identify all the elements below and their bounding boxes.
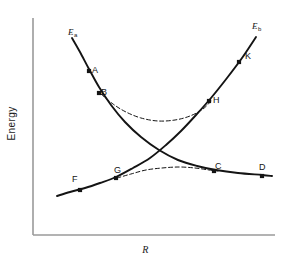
marker-K (237, 60, 241, 64)
point-label-h: H (213, 96, 220, 105)
curve-label-subscript: a (74, 32, 77, 38)
curve-label-base: E (68, 27, 74, 37)
potential-energy-diagram (0, 0, 291, 271)
axes-group (33, 18, 275, 235)
point-label-b: B (101, 88, 107, 97)
x-axis-label: R (0, 244, 291, 255)
marker-F (78, 188, 82, 192)
curve-label-ea: Ea (68, 28, 77, 37)
marker-A (87, 69, 91, 73)
point-label-k: K (245, 52, 251, 61)
marker-G (114, 176, 118, 180)
curve-label-subscript: b (258, 26, 261, 32)
point-label-d: D (259, 163, 266, 172)
marker-H (207, 99, 211, 103)
curve-label-base: E (252, 21, 258, 31)
y-axis-label: Energy (6, 89, 17, 159)
point-label-f: F (72, 175, 78, 184)
curve-label-eb: Eb (252, 22, 261, 31)
point-label-g: G (114, 166, 121, 175)
point-label-c: C (215, 162, 222, 171)
marker-D (260, 174, 264, 178)
point-label-a: A (92, 66, 98, 75)
